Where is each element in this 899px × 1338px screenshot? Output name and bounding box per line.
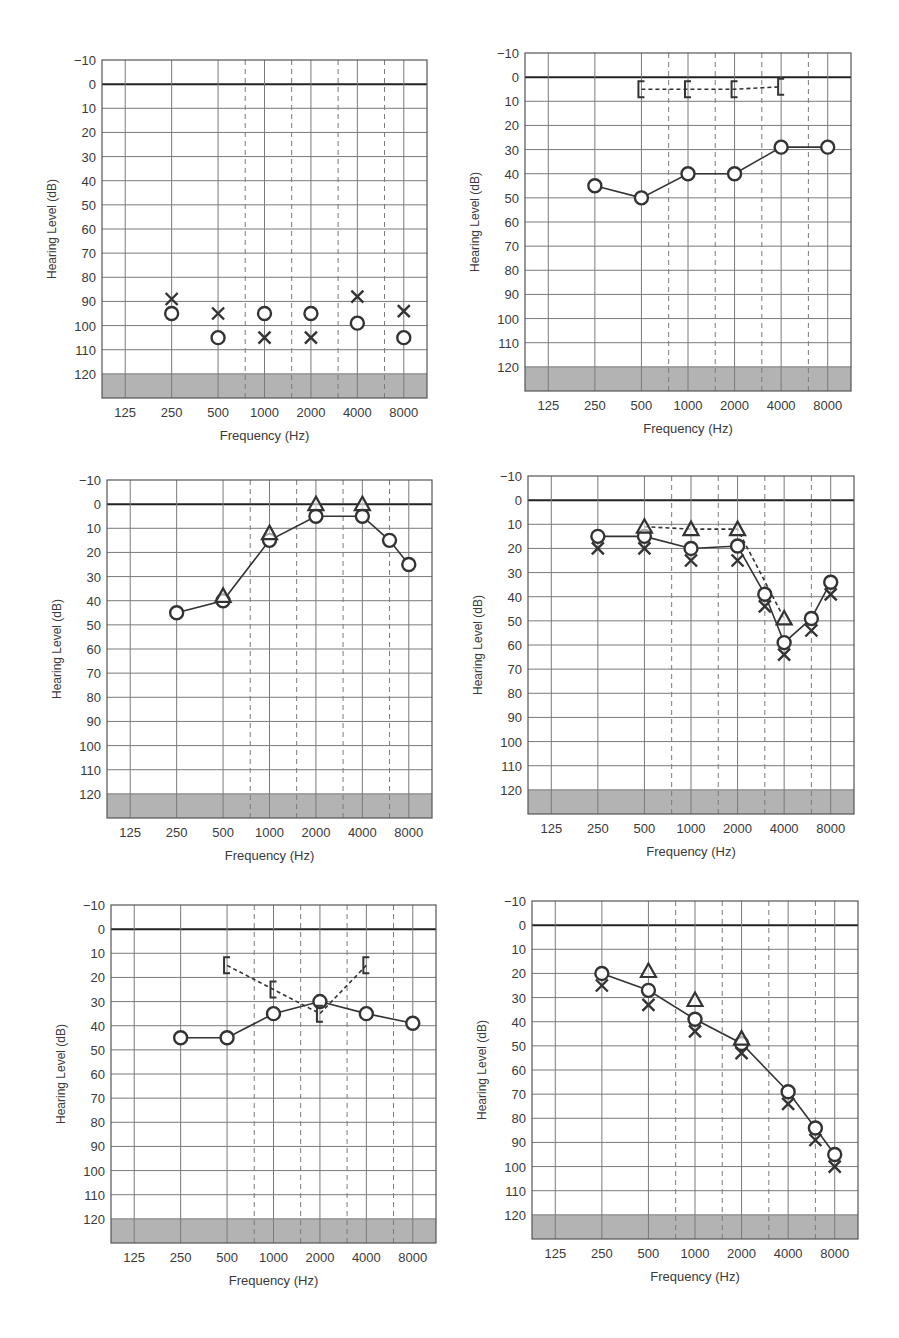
circle-marker-icon xyxy=(778,636,791,649)
y-axis-title: Hearing Level (dB) xyxy=(54,1024,68,1124)
y-tick-label: 20 xyxy=(512,966,526,981)
y-tick-label: 110 xyxy=(84,1188,105,1203)
y-tick-label: 30 xyxy=(508,566,522,581)
y-tick-label: 70 xyxy=(512,1087,526,1102)
y-tick-label: 60 xyxy=(512,1063,526,1078)
circle-marker-icon xyxy=(170,606,183,619)
y-tick-label: 50 xyxy=(87,618,101,633)
x-tick-label: 8000 xyxy=(389,405,418,420)
x-tick-label: 500 xyxy=(207,405,229,420)
x-tick-label: 4000 xyxy=(774,1246,803,1261)
y-tick-label: 90 xyxy=(505,287,519,302)
circle-marker-icon xyxy=(805,612,818,625)
circle-marker-icon xyxy=(682,167,695,180)
circle-marker-icon xyxy=(588,179,601,192)
triangle-marker-icon xyxy=(688,992,703,1006)
y-tick-label: 80 xyxy=(91,1115,105,1130)
y-tick-label: 90 xyxy=(87,714,101,729)
circle-marker-icon xyxy=(731,540,744,553)
y-tick-label: 110 xyxy=(75,343,96,358)
y-tick-label: 50 xyxy=(91,1043,105,1058)
y-tick-label: 110 xyxy=(80,763,101,778)
x-tick-label: 1000 xyxy=(250,405,279,420)
y-tick-label: 120 xyxy=(79,787,101,802)
y-tick-label: 90 xyxy=(508,710,522,725)
triangle-marker-icon xyxy=(637,519,652,533)
y-tick-label: 10 xyxy=(505,94,519,109)
y-tick-label: 10 xyxy=(87,521,101,536)
y-tick-label: 100 xyxy=(504,1160,526,1175)
x-axis-title: Frequency (Hz) xyxy=(220,428,310,443)
y-axis-title: Hearing Level (dB) xyxy=(50,599,64,699)
y-tick-label: 10 xyxy=(82,101,96,116)
circle-marker-icon xyxy=(685,542,698,555)
y-tick-label: 50 xyxy=(512,1039,526,1054)
y-tick-label: 100 xyxy=(497,312,519,327)
circle-marker-icon xyxy=(174,1031,187,1044)
x-tick-label: 125 xyxy=(119,825,141,840)
x-tick-label: 1000 xyxy=(255,825,284,840)
series-circle xyxy=(170,510,415,620)
circle-marker-icon xyxy=(591,530,604,543)
x-tick-label: 250 xyxy=(591,1246,613,1261)
audiogram-panel-4: −100102030405060708090100110120125250500… xyxy=(468,468,860,862)
y-tick-label: 10 xyxy=(508,517,522,532)
audiogram-panel-1: −100102030405060708090100110120125250500… xyxy=(42,52,433,446)
x-tick-label: 1000 xyxy=(674,398,703,413)
audiogram-chart: −100102030405060708090100110120125250500… xyxy=(465,45,857,439)
circle-marker-icon xyxy=(689,1013,702,1026)
y-tick-label: −10 xyxy=(79,473,101,488)
x-axis-title: Frequency (Hz) xyxy=(225,848,315,863)
y-tick-label: 40 xyxy=(508,590,522,605)
x-tick-label: 2000 xyxy=(720,398,749,413)
y-tick-label: 50 xyxy=(508,614,522,629)
y-axis-title: Hearing Level (dB) xyxy=(45,179,59,279)
x-tick-label: 2000 xyxy=(727,1246,756,1261)
series-triangle xyxy=(216,497,370,602)
audiogram-panel-2: −100102030405060708090100110120125250500… xyxy=(465,45,857,439)
y-tick-label: 80 xyxy=(505,263,519,278)
x-tick-label: 125 xyxy=(544,1246,566,1261)
x-tick-label: 8000 xyxy=(398,1250,427,1265)
x-tick-label: 500 xyxy=(638,1246,660,1261)
circle-marker-icon xyxy=(221,1031,234,1044)
y-tick-label: 60 xyxy=(91,1067,105,1082)
x-tick-label: 8000 xyxy=(394,825,423,840)
y-tick-label: 50 xyxy=(505,191,519,206)
y-tick-label: 90 xyxy=(82,294,96,309)
y-tick-label: 40 xyxy=(91,1019,105,1034)
x-tick-label: 250 xyxy=(584,398,606,413)
y-tick-label: 40 xyxy=(512,1015,526,1030)
x-tick-label: 250 xyxy=(587,821,609,836)
x-tick-label: 125 xyxy=(114,405,136,420)
y-tick-label: 0 xyxy=(94,497,101,512)
y-tick-label: 40 xyxy=(87,594,101,609)
y-tick-label: 120 xyxy=(500,783,522,798)
y-tick-label: 20 xyxy=(87,545,101,560)
circle-marker-icon xyxy=(304,307,317,320)
y-tick-label: 80 xyxy=(512,1111,526,1126)
circle-marker-icon xyxy=(824,576,837,589)
y-tick-label: 30 xyxy=(91,995,105,1010)
y-tick-label: 110 xyxy=(505,1184,526,1199)
y-tick-label: 20 xyxy=(508,541,522,556)
y-tick-label: 60 xyxy=(505,215,519,230)
circle-marker-icon xyxy=(309,510,322,523)
y-tick-label: 10 xyxy=(91,946,105,961)
y-tick-label: 70 xyxy=(505,239,519,254)
x-tick-label: 8000 xyxy=(820,1246,849,1261)
circle-marker-icon xyxy=(360,1007,373,1020)
x-tick-label: 1000 xyxy=(681,1246,710,1261)
circle-marker-icon xyxy=(212,331,225,344)
y-tick-label: 110 xyxy=(498,336,519,351)
y-tick-label: 0 xyxy=(519,918,526,933)
series-x xyxy=(592,542,837,660)
circle-marker-icon xyxy=(258,307,271,320)
x-tick-label: 125 xyxy=(537,398,559,413)
x-axis-title: Frequency (Hz) xyxy=(643,421,733,436)
y-tick-label: −10 xyxy=(74,53,96,68)
x-tick-label: 250 xyxy=(166,825,188,840)
y-tick-label: 80 xyxy=(87,690,101,705)
y-tick-label: −10 xyxy=(497,46,519,61)
x-tick-label: 125 xyxy=(123,1250,145,1265)
